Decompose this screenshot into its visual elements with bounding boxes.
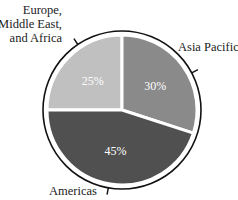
slice-value-emea: 25%	[82, 73, 104, 88]
tick-asia-pacific	[192, 70, 198, 73]
tick-emea	[74, 39, 78, 45]
label-emea-line3: and Africa	[0, 31, 62, 45]
slice-value-americas: 45%	[105, 143, 127, 158]
label-emea-line1: Europe,	[0, 3, 62, 17]
label-emea-line2: Middle East,	[0, 17, 62, 31]
slice-value-asia-pacific: 30%	[144, 78, 166, 93]
label-emea: Europe, Middle East, and Africa	[0, 3, 62, 45]
label-asia-pacific: Asia Pacific	[178, 40, 238, 54]
label-americas: Americas	[49, 184, 97, 198]
tick-americas	[107, 188, 108, 195]
